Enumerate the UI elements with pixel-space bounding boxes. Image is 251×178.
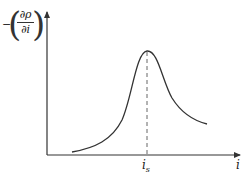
peak-curve	[72, 51, 207, 152]
peak-label: is	[142, 158, 150, 174]
y-axis-label: − ( ∂ρ ∂i )	[2, 4, 44, 48]
x-axis-label: i	[236, 158, 240, 172]
peak-label-subscript: s	[146, 165, 150, 174]
right-paren: )	[32, 4, 45, 44]
